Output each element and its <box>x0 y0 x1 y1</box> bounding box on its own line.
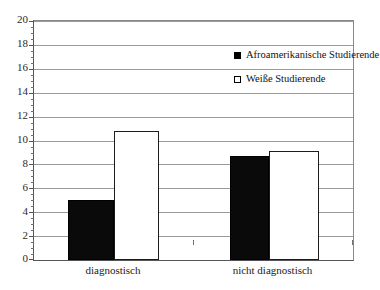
y-axis-label: 14 <box>2 86 28 97</box>
x-axis-label-diagnostisch: diagnostisch <box>33 264 193 276</box>
y-axis-label: 0 <box>2 253 28 264</box>
y-axis-label: 6 <box>2 182 28 193</box>
y-axis-label: 18 <box>2 38 28 49</box>
x-axis-label-nicht-diagnostisch: nicht diagnostisch <box>193 264 352 276</box>
legend-label: Weiße Studierende <box>246 73 325 85</box>
filled-square-icon <box>234 52 241 59</box>
x-tick <box>33 240 34 245</box>
legend-item-weisse-studierende: Weiße Studierende <box>234 67 380 91</box>
y-axis-label: 8 <box>2 158 28 169</box>
legend-label: Afroamerikanische Studierende <box>246 49 379 61</box>
bar-diagnostisch-weiss <box>114 131 159 260</box>
x-tick <box>193 240 194 245</box>
y-axis-label: 2 <box>2 230 28 241</box>
plot-area: Afroamerikanische Studierende Weiße Stud… <box>33 20 354 261</box>
y-axis-label: 12 <box>2 110 28 121</box>
y-axis-label: 4 <box>2 206 28 217</box>
bar-nicht-diagnostisch-weiss <box>269 151 319 260</box>
bar-diagnostisch-afroamerikanisch <box>68 200 114 260</box>
y-axis-label: 10 <box>2 134 28 145</box>
open-square-icon <box>234 76 241 83</box>
y-axis-label: 20 <box>2 14 28 25</box>
bar-nicht-diagnostisch-afroamerikanisch <box>230 156 269 260</box>
legend: Afroamerikanische Studierende Weiße Stud… <box>234 43 380 91</box>
y-axis-label: 16 <box>2 62 28 73</box>
x-tick <box>352 240 353 245</box>
legend-item-afroamerikanische-studierende: Afroamerikanische Studierende <box>234 43 380 67</box>
